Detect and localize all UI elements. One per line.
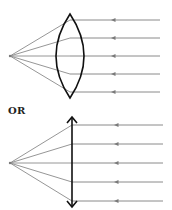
ray-arrow-icon (114, 199, 119, 203)
refracted-ray (10, 20, 70, 56)
biconvex-lens-diagram (9, 14, 160, 98)
or-label: OR (8, 105, 25, 116)
refracted-ray (10, 56, 70, 74)
refracted-ray (10, 163, 72, 201)
ray-arrow-icon (111, 18, 116, 22)
thin-lens-diagram (9, 117, 163, 207)
ray-arrow-icon (114, 180, 119, 184)
refracted-ray (10, 163, 72, 182)
ray-arrow-icon (114, 123, 119, 127)
refracted-ray (10, 125, 72, 163)
ray-arrow-icon (111, 72, 116, 76)
refracted-ray (10, 38, 70, 56)
focal-point (9, 162, 11, 164)
refracted-ray (10, 144, 72, 163)
focal-point (9, 55, 11, 57)
ray-arrow-icon (111, 54, 116, 58)
ray-arrow-icon (114, 142, 119, 146)
lens-diagrams (0, 0, 172, 210)
refracted-ray (10, 56, 70, 92)
ray-arrow-icon (111, 36, 116, 40)
ray-arrow-icon (114, 161, 119, 165)
ray-arrow-icon (111, 90, 116, 94)
